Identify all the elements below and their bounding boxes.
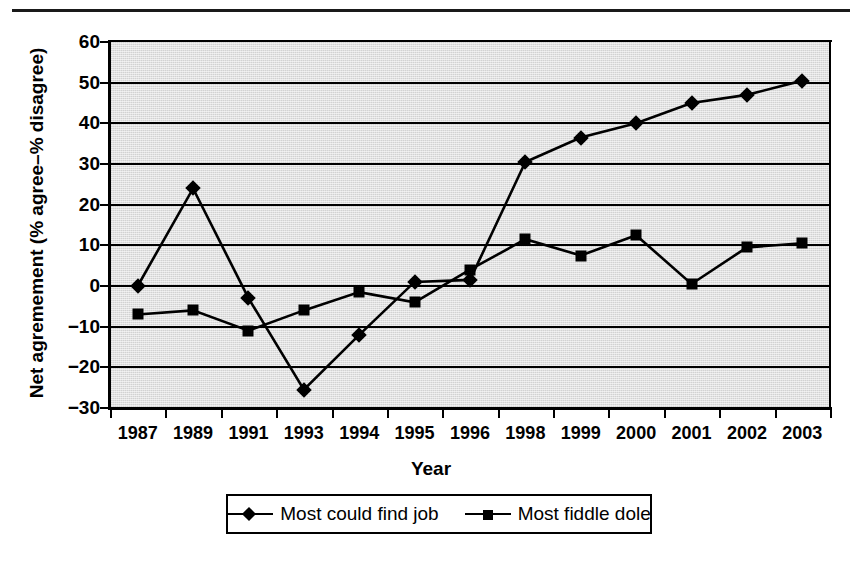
x-axis-tick bbox=[664, 409, 666, 418]
y-axis-tick-label: 50 bbox=[54, 73, 100, 92]
y-axis-tick bbox=[100, 407, 109, 409]
square-data-point bbox=[686, 278, 697, 289]
y-axis-tick bbox=[100, 82, 109, 84]
y-axis-tick bbox=[100, 122, 109, 124]
x-axis-line bbox=[108, 407, 832, 410]
y-axis-tick bbox=[100, 163, 109, 165]
x-axis-tick bbox=[498, 409, 500, 418]
square-data-point bbox=[298, 305, 309, 316]
line-chart: 6050403020100−10−20−30 19871989199119931… bbox=[0, 0, 862, 563]
legend-entry-most-could-find-job: Most could find job bbox=[227, 503, 438, 525]
square-data-point bbox=[409, 297, 420, 308]
x-axis-tick bbox=[110, 409, 112, 418]
x-axis-tick bbox=[442, 409, 444, 418]
y-axis-tick bbox=[100, 366, 109, 368]
x-axis-tick bbox=[332, 409, 334, 418]
y-axis-tick bbox=[100, 204, 109, 206]
gridline bbox=[110, 122, 830, 124]
y-axis-tick bbox=[100, 326, 109, 328]
square-data-point bbox=[243, 325, 254, 336]
x-axis-tick bbox=[276, 409, 278, 418]
y-axis-tick-label: 30 bbox=[54, 154, 100, 173]
x-axis-tick bbox=[775, 409, 777, 418]
y-axis-tick bbox=[100, 244, 109, 246]
plot-fill-texture bbox=[110, 42, 830, 408]
gridline bbox=[110, 82, 830, 84]
square-marker-icon bbox=[465, 506, 511, 522]
y-axis-line bbox=[108, 40, 111, 410]
square-data-point bbox=[465, 264, 476, 275]
diamond-marker-icon bbox=[227, 506, 273, 522]
y-axis-tick-label: −10 bbox=[54, 317, 100, 336]
y-axis-tick-label: 60 bbox=[54, 32, 100, 51]
legend-label: Most could find job bbox=[280, 503, 438, 525]
gridline bbox=[110, 204, 830, 206]
x-axis-tick bbox=[830, 409, 832, 418]
legend-entry-most-fiddle-dole: Most fiddle dole bbox=[465, 503, 651, 525]
plot-border-right bbox=[829, 40, 831, 410]
square-data-point bbox=[520, 234, 531, 245]
x-axis-tick bbox=[221, 409, 223, 418]
square-data-point bbox=[741, 242, 752, 253]
y-axis-tick-label: −20 bbox=[54, 357, 100, 376]
gridline bbox=[110, 163, 830, 165]
square-data-point bbox=[188, 305, 199, 316]
y-axis-tick bbox=[100, 41, 109, 43]
x-axis-tick bbox=[387, 409, 389, 418]
chart-legend: Most could find job Most fiddle dole bbox=[226, 494, 652, 534]
y-axis-tick-label: 40 bbox=[54, 113, 100, 132]
x-axis-tick bbox=[553, 409, 555, 418]
x-axis-tick bbox=[719, 409, 721, 418]
x-axis-tick bbox=[608, 409, 610, 418]
x-axis-tick-label: 2003 bbox=[767, 424, 837, 442]
square-data-point bbox=[631, 230, 642, 241]
y-axis-tick-label: 0 bbox=[54, 276, 100, 295]
plot-border-top bbox=[108, 40, 832, 42]
legend-label: Most fiddle dole bbox=[518, 503, 651, 525]
x-axis-title: Year bbox=[0, 458, 862, 480]
x-axis-tick bbox=[165, 409, 167, 418]
gridline bbox=[110, 326, 830, 328]
y-axis-tick-label: −30 bbox=[54, 398, 100, 417]
y-axis-tick-label: 20 bbox=[54, 195, 100, 214]
square-data-point bbox=[354, 287, 365, 298]
square-data-point bbox=[797, 238, 808, 249]
y-axis-tick bbox=[100, 285, 109, 287]
y-axis-tick-label: 10 bbox=[54, 235, 100, 254]
square-data-point bbox=[132, 309, 143, 320]
y-axis-title: Net agremement (% agree–% disagree) bbox=[26, 23, 48, 423]
gridline bbox=[110, 244, 830, 246]
figure-page: 6050403020100−10−20−30 19871989199119931… bbox=[0, 0, 862, 563]
square-data-point bbox=[575, 250, 586, 261]
plot-area bbox=[110, 42, 830, 408]
gridline bbox=[110, 366, 830, 368]
